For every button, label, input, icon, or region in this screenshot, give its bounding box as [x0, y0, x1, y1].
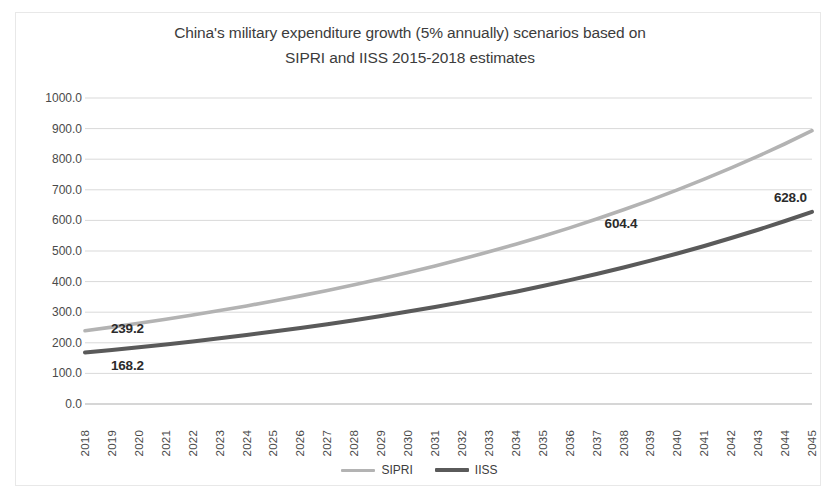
x-axis-tick-label: 2028: [348, 430, 360, 456]
x-axis-tick-label: 2022: [187, 430, 199, 456]
x-axis-tick-label: 2042: [725, 430, 737, 456]
x-axis-tick-label: 2033: [483, 430, 495, 456]
legend-item-iiss[interactable]: IISS: [435, 463, 498, 477]
x-axis-tick-label: 2034: [510, 430, 522, 456]
x-axis-tick-label: 2026: [294, 430, 306, 456]
data-point-label: 168.2: [111, 358, 144, 373]
x-axis-tick-label: 2041: [698, 430, 710, 456]
data-point-label: 628.0: [774, 190, 807, 205]
chart-legend: SIPRIIISS: [0, 463, 839, 477]
x-axis-tick-label: 2039: [644, 430, 656, 456]
legend-item-sipri[interactable]: SIPRI: [341, 463, 412, 477]
x-axis-tick-label: 2035: [537, 430, 549, 456]
y-axis-tick-label: 200.0: [12, 336, 82, 350]
x-axis-tick-label: 2043: [752, 430, 764, 456]
x-axis-tick-label: 2019: [106, 430, 118, 456]
x-axis-tick-label: 2027: [321, 430, 333, 456]
x-axis-tick-label: 2032: [456, 430, 468, 456]
x-axis-tick-label: 2018: [79, 430, 91, 456]
y-axis-tick-label: 300.0: [12, 305, 82, 319]
legend-swatch-iiss: [435, 468, 469, 472]
x-axis-tick-label: 2045: [806, 430, 818, 456]
series-line-sipri: [85, 131, 812, 331]
x-axis-tick-label: 2030: [402, 430, 414, 456]
x-axis-tick-label: 2040: [671, 430, 683, 456]
x-axis-tick-label: 2029: [375, 430, 387, 456]
x-axis-tick-label: 2021: [160, 430, 172, 456]
y-axis-tick-label: 700.0: [12, 183, 82, 197]
x-axis-tick-label: 2037: [591, 430, 603, 456]
x-axis-tick-labels: 2018201920202021202220232024202520262027…: [0, 408, 839, 456]
data-point-label: 604.4: [605, 216, 638, 231]
x-axis-tick-label: 2044: [779, 430, 791, 456]
x-axis-tick-label: 2038: [618, 430, 630, 456]
x-axis-tick-label: 2036: [564, 430, 576, 456]
y-axis-tick-label: 600.0: [12, 213, 82, 227]
x-axis-tick-label: 2024: [241, 430, 253, 456]
x-axis-tick-label: 2020: [133, 430, 145, 456]
data-point-label: 239.2: [111, 321, 144, 336]
y-axis-tick-label: 900.0: [12, 122, 82, 136]
legend-label: IISS: [475, 463, 498, 477]
x-axis-tick-label: 2025: [267, 430, 279, 456]
y-axis-tick-label: 1000.0: [12, 91, 82, 105]
y-axis-tick-label: 800.0: [12, 152, 82, 166]
legend-label: SIPRI: [381, 463, 412, 477]
series-line-iiss: [85, 212, 812, 353]
legend-swatch-sipri: [341, 469, 375, 472]
x-axis-tick-label: 2031: [429, 430, 441, 456]
y-axis-tick-label: 500.0: [12, 244, 82, 258]
y-axis-tick-label: 100.0: [12, 366, 82, 380]
y-axis-tick-label: 400.0: [12, 275, 82, 289]
x-axis-tick-label: 2023: [214, 430, 226, 456]
